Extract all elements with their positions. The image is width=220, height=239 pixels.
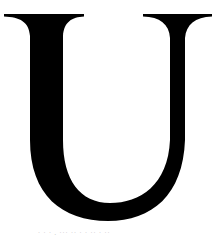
left-serif — [4, 14, 212, 221]
letter-u-glyph — [0, 0, 220, 239]
image-caption: · · · . ··· ·· · · ·· · ·· — [38, 229, 198, 237]
